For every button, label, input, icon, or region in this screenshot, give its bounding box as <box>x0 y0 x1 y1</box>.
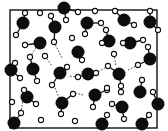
water-molecules-diagram <box>0 0 168 131</box>
hydrogen-atom <box>42 53 47 58</box>
hydrogen-atom <box>64 64 69 69</box>
hydrogen-bond-line <box>75 93 83 95</box>
hydrogen-atom <box>90 104 95 109</box>
oxygen-atom <box>152 98 165 111</box>
hydrogen-atom <box>120 40 125 45</box>
hydrogen-atom <box>22 42 27 47</box>
hydrogen-atom <box>21 87 26 92</box>
oxygen-atom <box>8 117 21 130</box>
hydrogen-atom <box>75 9 80 14</box>
oxygen-atom <box>118 14 131 27</box>
oxygen-atom <box>81 17 94 30</box>
hydrogen-atom <box>109 101 114 106</box>
hydrogen-atom <box>140 37 145 42</box>
oxygen-atom <box>96 118 109 131</box>
hydrogen-atom <box>27 54 32 59</box>
hydrogen-atom <box>135 62 140 67</box>
hydrogen-atom <box>34 78 39 83</box>
hydrogen-atom <box>118 83 123 88</box>
hydrogen-atom <box>103 27 108 32</box>
oxygen-atom <box>17 17 30 30</box>
hydrogen-atom <box>18 110 23 115</box>
hydrogen-atom <box>111 51 116 56</box>
hydrogen-atom <box>118 89 123 94</box>
oxygen-atom <box>58 2 71 15</box>
hydrogen-atom <box>51 39 56 44</box>
atoms <box>5 2 165 131</box>
hydrogen-atom <box>139 77 144 82</box>
hydrogen-atom <box>92 8 97 13</box>
hydrogen-atom <box>131 22 136 27</box>
hydrogen-atom <box>147 8 152 13</box>
hydrogen-atom <box>112 8 117 13</box>
hydrogen-atom <box>99 40 104 45</box>
oxygen-atom <box>113 68 126 81</box>
oxygen-atom <box>136 118 149 131</box>
oxygen-atom <box>34 37 47 50</box>
hydrogen-atom <box>93 70 98 75</box>
hydrogen-atom <box>12 60 17 65</box>
hydrogen-atom <box>79 57 84 62</box>
hydrogen-atom <box>70 91 75 96</box>
oxygen-atom <box>27 63 40 76</box>
hydrogen-atom <box>82 31 87 36</box>
oxygen-atom <box>49 21 62 34</box>
hydrogen-atom <box>121 116 126 121</box>
hydrogen-atom <box>37 10 42 15</box>
oxygen-atom <box>82 68 95 81</box>
hydrogen-atom <box>63 17 68 22</box>
hydrogen-atom <box>9 99 14 104</box>
hydrogen-atom <box>104 112 109 117</box>
hydrogen-atom <box>13 32 18 37</box>
hydrogen-atom <box>105 63 110 68</box>
hydrogen-atom <box>72 118 77 123</box>
hydrogen-atom <box>48 13 53 18</box>
hydrogen-atom <box>104 85 109 90</box>
hydrogen-atom <box>98 20 103 25</box>
hydrogen-atom <box>17 75 22 80</box>
hydrogen-atom <box>33 101 38 106</box>
hydrogen-atom <box>155 27 160 32</box>
oxygen-atom <box>89 89 102 102</box>
oxygen-atom <box>103 35 116 48</box>
hydrogen-atom <box>49 82 54 87</box>
hydrogen-atom <box>38 117 43 122</box>
oxygen-atom <box>56 97 69 110</box>
oxygen-atom <box>116 101 129 114</box>
oxygen-atom <box>134 86 147 99</box>
hydrogen-atom <box>150 89 155 94</box>
hydrogen-atom <box>75 74 80 79</box>
oxygen-atom <box>72 46 85 59</box>
hydrogen-atom <box>69 35 74 40</box>
hydrogen-atom <box>145 44 150 49</box>
hydrogen-atom <box>58 111 63 116</box>
oxygen-atom <box>144 53 157 66</box>
hydrogen-atom <box>146 112 151 117</box>
hydrogen-atom <box>22 10 27 15</box>
oxygen-atom <box>144 16 157 29</box>
